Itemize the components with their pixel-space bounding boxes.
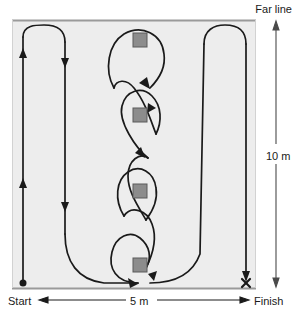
far-line-label: Far line xyxy=(255,4,292,15)
cone-1 xyxy=(133,33,147,47)
start-label: Start xyxy=(8,296,31,307)
field-area xyxy=(12,20,256,288)
course-diagram-svg xyxy=(0,0,298,317)
height-dimension-label: 10 m xyxy=(266,151,290,162)
course-diagram: Far line 10 m Start 5 m Finish xyxy=(0,0,298,317)
cone-3 xyxy=(133,184,147,198)
width-dimension-label: 5 m xyxy=(130,296,148,307)
cone-4 xyxy=(133,258,147,272)
start-marker-dot xyxy=(20,280,27,287)
finish-label: Finish xyxy=(254,296,283,307)
cone-2 xyxy=(133,108,147,122)
